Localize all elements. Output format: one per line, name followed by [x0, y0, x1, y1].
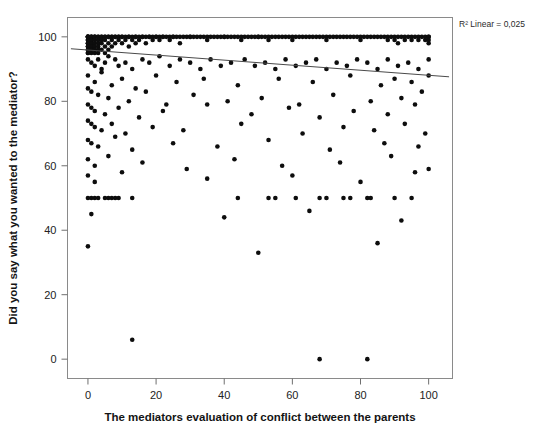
scatter-point	[426, 57, 431, 62]
scatter-point	[120, 41, 125, 46]
scatter-point	[341, 196, 346, 201]
scatter-point	[256, 250, 261, 255]
scatter-point	[311, 80, 316, 85]
scatter-point	[184, 167, 189, 172]
scatter-point	[375, 241, 380, 246]
scatter-point	[116, 64, 121, 69]
scatter-point	[123, 38, 128, 43]
scatter-point	[127, 99, 132, 104]
scatter-point	[120, 76, 125, 81]
scatter-point	[167, 64, 172, 69]
scatter-point	[96, 57, 101, 62]
scatter-point	[317, 357, 322, 362]
scatter-point	[113, 57, 118, 62]
scatter-point	[103, 38, 108, 43]
r-squared-label: R² Linear = 0,025	[459, 19, 525, 29]
scatter-point	[92, 64, 97, 69]
scatter-point	[317, 115, 322, 120]
scatter-point	[144, 41, 149, 46]
scatter-point	[297, 102, 302, 107]
scatter-point	[109, 38, 114, 43]
scatter-point	[399, 218, 404, 223]
scatter-point	[201, 76, 206, 81]
x-axis-title: The mediators evaluation of conflict bet…	[104, 411, 415, 423]
scatter-point	[130, 147, 135, 152]
scatter-point	[86, 57, 91, 62]
scatter-point	[409, 196, 414, 201]
scatter-points	[86, 35, 431, 362]
scatter-point	[266, 38, 271, 43]
scatter-point	[123, 131, 128, 136]
scatter-point	[413, 102, 418, 107]
scatter-point	[372, 128, 377, 133]
scatter-point	[276, 76, 281, 81]
scatter-point	[368, 196, 373, 201]
scatter-point	[116, 105, 121, 110]
scatter-point	[205, 38, 210, 43]
scatter-point	[96, 144, 101, 149]
scatter-point	[406, 60, 411, 65]
scatter-point	[86, 244, 91, 249]
scatter-point	[331, 93, 336, 98]
y-tick-label: 0	[50, 353, 56, 365]
scatter-point	[89, 141, 94, 146]
scatter-point	[300, 131, 305, 136]
scatter-point	[348, 73, 353, 78]
scatter-point	[130, 67, 135, 72]
scatter-point	[290, 38, 295, 43]
scatter-point	[157, 54, 162, 59]
scatter-point	[396, 64, 401, 69]
x-tick-label: 40	[218, 389, 230, 401]
scatter-point	[324, 38, 329, 43]
scatter-point	[133, 41, 138, 46]
scatter-point	[106, 41, 111, 46]
scatter-point	[385, 38, 390, 43]
scatter-point	[413, 170, 418, 175]
scatter-point	[304, 60, 309, 65]
scatter-point	[86, 73, 91, 78]
scatter-point	[379, 83, 384, 88]
scatter-point	[348, 196, 353, 201]
scatter-point	[150, 125, 155, 130]
scatter-point	[283, 57, 288, 62]
scatter-point	[137, 115, 142, 120]
scatter-point	[423, 131, 428, 136]
scatter-point	[150, 38, 155, 43]
scatter-point	[89, 212, 94, 217]
scatter-point	[188, 60, 193, 65]
scatter-point	[123, 60, 128, 65]
scatter-point	[106, 154, 111, 159]
scatter-point	[232, 157, 237, 162]
scatter-point	[86, 86, 91, 91]
scatter-point	[334, 60, 339, 65]
x-tick-label: 100	[419, 389, 437, 401]
scatter-point	[99, 41, 104, 46]
scatter-plot-figure: 020406080100 020406080100 The mediators …	[0, 0, 536, 442]
scatter-point	[389, 154, 394, 159]
scatter-point	[409, 38, 414, 43]
scatter-point	[116, 38, 121, 43]
scatter-point	[89, 105, 94, 110]
scatter-point	[205, 102, 210, 107]
scatter-point	[403, 38, 408, 43]
scatter-point	[92, 163, 97, 168]
scatter-point	[171, 141, 176, 146]
scatter-point	[127, 44, 132, 49]
scatter-point	[154, 73, 159, 78]
scatter-point	[140, 57, 145, 62]
scatter-point	[351, 109, 356, 114]
scatter-point	[198, 67, 203, 72]
y-axis-ticks	[62, 37, 68, 359]
scatter-point	[273, 196, 278, 201]
x-axis-tick-labels: 020406080100	[85, 389, 438, 401]
scatter-point	[345, 64, 350, 69]
scatter-point	[266, 138, 271, 143]
scatter-point	[273, 67, 278, 72]
scatter-point	[338, 160, 343, 165]
scatter-point	[167, 38, 172, 43]
scatter-point	[178, 57, 183, 62]
scatter-point	[399, 96, 404, 101]
scatter-point	[242, 57, 247, 62]
scatter-point	[103, 60, 108, 65]
scatter-point	[416, 38, 421, 43]
